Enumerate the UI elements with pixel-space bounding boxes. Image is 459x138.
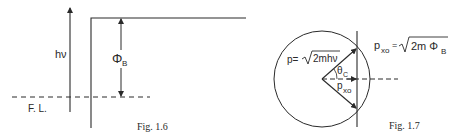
figure-1-7: p= 2mhν θ C p xo p xo = 2m Φ B Fig. 1.7 <box>274 31 448 131</box>
pxo-subscript: xo <box>343 86 352 95</box>
momentum-label-lhs: p= <box>287 54 299 65</box>
figure-1-6-caption: Fig. 1.6 <box>137 121 168 132</box>
barrier-height-label: Φ <box>112 51 122 66</box>
barrier-outline <box>91 18 246 128</box>
pxo-equation-lhs: p <box>374 39 380 51</box>
fermi-level-label: F. L. <box>28 103 47 114</box>
figure-1-7-caption: Fig. 1.7 <box>389 120 420 131</box>
pxo-equation-rhs: 2m Φ <box>411 40 438 52</box>
pxo-equation-rhs-subscript: B <box>441 47 446 56</box>
diagram-canvas: hν Φ B F. L. Fig. 1.6 p= 2mhν θ C p xo p… <box>0 0 459 138</box>
pxo-equation-equals: = <box>392 40 397 50</box>
momentum-label-rhs: 2mhν <box>313 53 337 64</box>
pxo-equation-lhs-subscript: xo <box>381 46 390 55</box>
barrier-height-subscript: B <box>122 59 127 68</box>
photon-energy-label: hν <box>55 48 67 60</box>
figure-1-6: hν Φ B F. L. Fig. 1.6 <box>12 8 246 132</box>
theta-c-subscript: C <box>343 71 348 78</box>
